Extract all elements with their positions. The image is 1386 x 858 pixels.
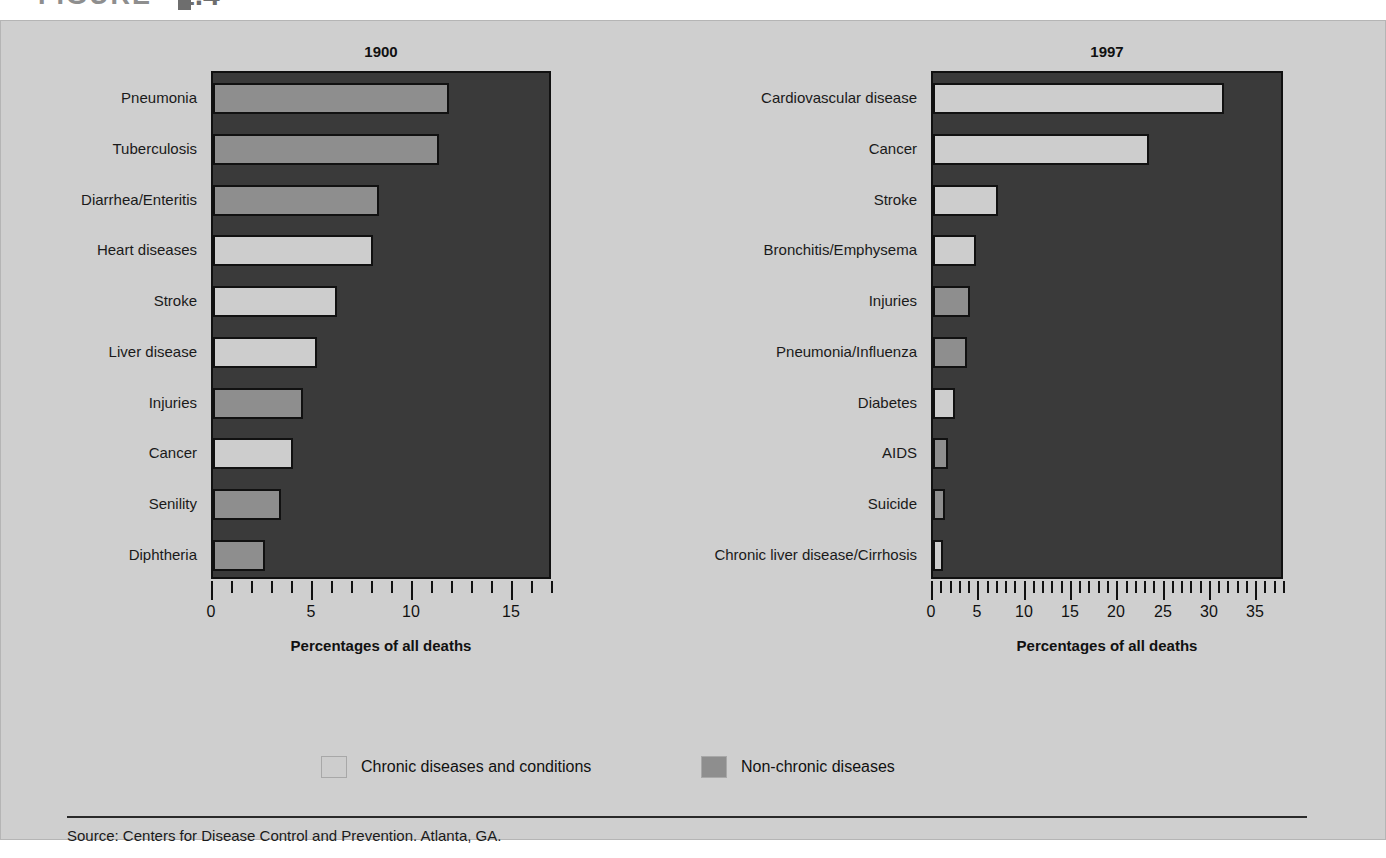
category-label: Suicide	[497, 494, 917, 511]
axis-tick-major	[211, 581, 213, 600]
charts-container: 1900 Percentages of all deaths Pneumonia…	[1, 21, 1386, 721]
bar	[933, 540, 943, 571]
category-label: Tuberculosis	[0, 139, 197, 156]
category-label: Bronchitis/Emphysema	[497, 240, 917, 257]
axis-tick-minor	[231, 581, 233, 593]
axis-tick-major	[311, 581, 313, 600]
axis-tick-label: 15	[1061, 603, 1079, 621]
bar	[213, 438, 293, 469]
bar	[933, 286, 970, 317]
legend-label-nonchronic: Non-chronic diseases	[741, 758, 895, 776]
source-divider	[67, 816, 1307, 818]
bar	[213, 540, 265, 571]
axis-tick-minor	[1042, 581, 1044, 593]
figure-number: 1.4	[178, 0, 220, 12]
axis-tick-minor	[491, 581, 493, 593]
axis-tick-minor	[996, 581, 998, 593]
category-label: Injuries	[0, 393, 197, 410]
category-label: Injuries	[497, 291, 917, 308]
x-axis-title: Percentages of all deaths	[211, 637, 551, 654]
bar	[933, 83, 1224, 114]
axis-tick-label: 15	[502, 603, 520, 621]
axis-tick-minor	[271, 581, 273, 593]
axis-tick-minor	[1190, 581, 1192, 593]
category-label: Senility	[0, 494, 197, 511]
bar	[933, 134, 1149, 165]
figure-panel: 1900 Percentages of all deaths Pneumonia…	[0, 20, 1386, 840]
category-label: AIDS	[497, 443, 917, 460]
axis-tick-minor	[1153, 581, 1155, 593]
axis-tick-minor	[531, 581, 533, 593]
axis-tick-minor	[1088, 581, 1090, 593]
axis-tick-label: 5	[307, 603, 316, 621]
legend-item-chronic: Chronic diseases and conditions	[321, 756, 591, 778]
axis-tick-minor	[1274, 581, 1276, 593]
category-label: Cancer	[0, 443, 197, 460]
axis-tick-major	[1024, 581, 1026, 600]
axis-tick-minor	[1246, 581, 1248, 593]
category-label: Cardiovascular disease	[497, 88, 917, 105]
bar	[213, 185, 379, 216]
axis-tick-major	[1116, 581, 1118, 600]
axis-tick-minor	[1181, 581, 1183, 593]
bar	[933, 337, 967, 368]
category-label: Diphtheria	[0, 545, 197, 562]
x-axis-title: Percentages of all deaths	[931, 637, 1283, 654]
axis-tick-minor	[331, 581, 333, 593]
legend-swatch-nonchronic-icon	[701, 756, 727, 778]
axis-tick-minor	[371, 581, 373, 593]
legend-item-nonchronic: Non-chronic diseases	[701, 756, 895, 778]
axis-tick-minor	[1107, 581, 1109, 593]
category-label: Heart diseases	[0, 240, 197, 257]
plot-area	[931, 71, 1283, 579]
axis-tick-minor	[1135, 581, 1137, 593]
category-label: Pneumonia/Influenza	[497, 342, 917, 359]
axis-tick-minor	[987, 581, 989, 593]
category-label: Diabetes	[497, 393, 917, 410]
bar	[213, 286, 337, 317]
axis-tick-minor	[940, 581, 942, 593]
axis-tick-minor	[1014, 581, 1016, 593]
bar	[213, 489, 281, 520]
category-label: Liver disease	[0, 342, 197, 359]
figure-root: FIGURE 1.4 Leading causes of death: Unit…	[0, 0, 1386, 858]
axis-tick-minor	[968, 581, 970, 593]
axis-tick-label: 35	[1246, 603, 1264, 621]
category-label: Chronic liver disease/Cirrhosis	[497, 545, 917, 562]
bar	[213, 235, 373, 266]
category-label: Stroke	[0, 291, 197, 308]
axis-tick-label: 0	[207, 603, 216, 621]
category-label: Cancer	[497, 139, 917, 156]
chart-title: 1997	[931, 43, 1283, 60]
bar	[213, 83, 449, 114]
axis-tick-minor	[1005, 581, 1007, 593]
axis-tick-minor	[1227, 581, 1229, 593]
axis-tick-minor	[451, 581, 453, 593]
axis-tick-minor	[1172, 581, 1174, 593]
axis-tick-minor	[959, 581, 961, 593]
axis-tick-major	[1070, 581, 1072, 600]
bar	[933, 388, 955, 419]
axis-tick-minor	[391, 581, 393, 593]
category-label: Stroke	[497, 190, 917, 207]
figure-header: FIGURE 1.4 Leading causes of death: Unit…	[0, 0, 1386, 16]
category-label: Pneumonia	[0, 88, 197, 105]
axis-tick-minor	[251, 581, 253, 593]
axis-tick-major	[1255, 581, 1257, 600]
axis-tick-minor	[1264, 581, 1266, 593]
axis-tick-major	[511, 581, 513, 600]
axis-tick-minor	[1061, 581, 1063, 593]
axis-tick-major	[1163, 581, 1165, 600]
legend: Chronic diseases and conditions Non-chro…	[1, 756, 1386, 796]
bar	[213, 388, 303, 419]
source-text: Source: Centers for Disease Control and …	[67, 827, 501, 844]
axis-tick-label: 30	[1200, 603, 1218, 621]
bar	[213, 134, 439, 165]
bar	[933, 438, 948, 469]
axis-tick-label: 20	[1107, 603, 1125, 621]
axis-tick-minor	[1218, 581, 1220, 593]
axis-tick-minor	[1098, 581, 1100, 593]
axis-tick-minor	[1144, 581, 1146, 593]
bar	[933, 489, 945, 520]
axis-tick-minor	[950, 581, 952, 593]
